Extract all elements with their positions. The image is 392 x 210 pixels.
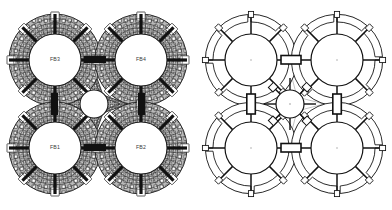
- ring-label-fb1: FB1: [50, 144, 60, 150]
- figure-container: FB3 FB4 FB1 FB2: [0, 0, 392, 210]
- ring-label-fb3: FB3: [50, 56, 60, 62]
- geometry-coupling-bottom: [281, 144, 301, 153]
- ring-label-fb4: FB4: [136, 56, 146, 62]
- finite-element-mesh-panel: FB3 FB4 FB1 FB2: [0, 0, 196, 210]
- mesh-central-hub-bore: [80, 90, 108, 118]
- geometry-coupling-top: [281, 56, 301, 65]
- geometry-canvas: [196, 0, 392, 210]
- mesh-coupling-bottom: [84, 144, 106, 151]
- geometry-line-drawing-panel: [196, 0, 392, 210]
- mesh-coupling-right: [138, 93, 145, 115]
- mesh-coupling-top: [84, 56, 106, 63]
- ring-label-fb2: FB2: [136, 144, 146, 150]
- mesh-coupling-left: [51, 93, 58, 115]
- geometry-central-hub: [264, 78, 316, 130]
- geometry-coupling-right: [333, 94, 342, 114]
- mesh-canvas: FB3 FB4 FB1 FB2: [0, 0, 196, 210]
- geometry-coupling-left: [247, 94, 256, 114]
